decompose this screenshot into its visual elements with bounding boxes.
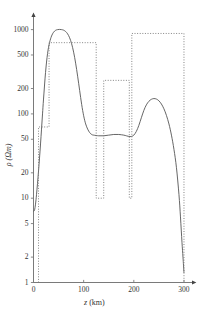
y-tick-label: 5 xyxy=(0,220,29,228)
x-tick-label: 100 xyxy=(69,286,99,294)
x-axis-title: z (km) xyxy=(84,299,105,307)
y-tick-label: 1000 xyxy=(0,26,29,34)
series-true-blocky-model xyxy=(39,33,184,282)
x-tick-label: 300 xyxy=(169,286,199,294)
y-tick-label: 500 xyxy=(0,51,29,59)
x-tick-label: 0 xyxy=(19,286,49,294)
resistivity-depth-chart: 1251020501002005001000 0100200300 z (km)… xyxy=(0,0,203,317)
x-axis-symbol: z xyxy=(84,298,87,307)
x-axis-unit: (km) xyxy=(89,298,105,307)
y-tick-label: 1 xyxy=(0,279,29,287)
chart-canvas xyxy=(0,0,203,317)
y-tick-label: 200 xyxy=(0,85,29,93)
y-tick-label: 2 xyxy=(0,253,29,261)
chart-series-group xyxy=(34,29,184,282)
y-axis-title: ρ (Ωm) xyxy=(4,143,13,167)
series-smooth-inverted-model xyxy=(34,29,184,272)
y-axis-title-wrap: ρ (Ωm) xyxy=(0,120,16,190)
y-tick-label: 10 xyxy=(0,194,29,202)
x-tick-label: 200 xyxy=(119,286,149,294)
y-tick-label: 100 xyxy=(0,110,29,118)
